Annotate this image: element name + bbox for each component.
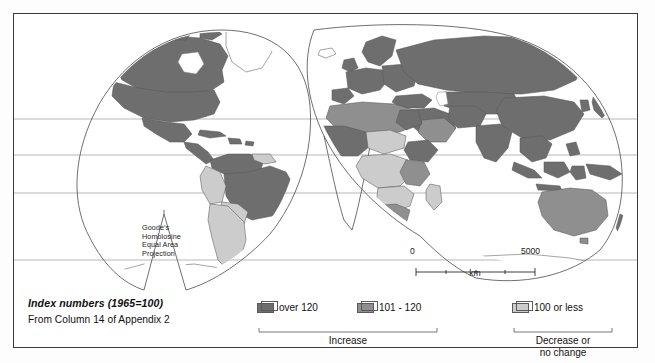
region-central-america xyxy=(184,142,214,164)
projection-note: Goode's Homolosine Equal Area Projection xyxy=(142,224,181,258)
region-caribbean-puertorico xyxy=(245,141,254,146)
region-new-guinea xyxy=(586,164,622,180)
region-kamchatka xyxy=(598,76,612,92)
region-alaska xyxy=(88,50,132,72)
region-west-africa xyxy=(312,126,370,156)
map-title: Index numbers (1965=100) xyxy=(28,297,170,309)
region-madagascar xyxy=(426,184,442,210)
region-iceland xyxy=(318,48,336,58)
region-soviet-union xyxy=(396,36,584,94)
region-east-africa xyxy=(400,160,430,186)
legend-swatch-101-120 xyxy=(357,303,374,313)
legend-item-101-120[interactable]: 101 - 120 xyxy=(357,302,421,313)
region-indonesia-borneo xyxy=(544,162,570,178)
region-scandinavia xyxy=(362,36,396,66)
region-philippines xyxy=(566,142,580,156)
region-iberia xyxy=(332,88,354,104)
region-horn-of-africa xyxy=(404,140,438,162)
legend-brackets xyxy=(259,328,612,332)
region-caribbean-cuba xyxy=(198,130,226,138)
region-greenland xyxy=(226,28,272,72)
scale-min-label: 0 xyxy=(410,246,415,256)
western-hemisphere-landmass xyxy=(88,28,294,286)
region-caribbean-hispaniola xyxy=(228,138,242,144)
scale-bar: 0 5000 km xyxy=(410,246,540,278)
map-source-note: From Column 14 of Appendix 2 xyxy=(28,314,170,325)
region-india xyxy=(476,124,512,162)
region-indonesia-sulawesi xyxy=(570,166,586,180)
legend-swatch-100-or-less xyxy=(512,303,529,313)
legend-label-over-120: over 120 xyxy=(279,302,318,313)
eastern-hemisphere-landmass xyxy=(312,36,630,276)
region-southeast-asia xyxy=(520,136,552,162)
legend-group-increase: Increase xyxy=(308,335,388,347)
scale-units-label: km xyxy=(410,268,540,278)
region-antarctica-west xyxy=(114,264,246,286)
legend-group-decrease: Decrease or no change xyxy=(513,335,613,358)
legend-item-over-120[interactable]: over 120 xyxy=(257,302,318,313)
region-australia xyxy=(538,188,608,236)
region-western-europe xyxy=(346,68,388,94)
scale-max-label: 5000 xyxy=(521,246,540,256)
region-indonesia-sumatra xyxy=(512,162,542,178)
map-figure: Goode's Homolosine Equal Area Projection… xyxy=(0,0,655,363)
title-block: Index numbers (1965=100) From Column 14 … xyxy=(28,297,170,325)
legend-swatch-over-120 xyxy=(257,303,274,313)
map-frame: Goode's Homolosine Equal Area Projection… xyxy=(13,13,638,348)
region-south-africa xyxy=(364,204,410,234)
legend-item-100-or-less[interactable]: 100 or less xyxy=(512,302,583,313)
legend-label-100-or-less: 100 or less xyxy=(534,302,583,313)
region-korea xyxy=(580,100,590,112)
region-tasmania xyxy=(580,238,588,244)
caspian-sea xyxy=(436,92,448,106)
region-new-zealand xyxy=(616,214,630,238)
region-sahel xyxy=(366,130,406,154)
legend-label-101-120: 101 - 120 xyxy=(379,302,421,313)
